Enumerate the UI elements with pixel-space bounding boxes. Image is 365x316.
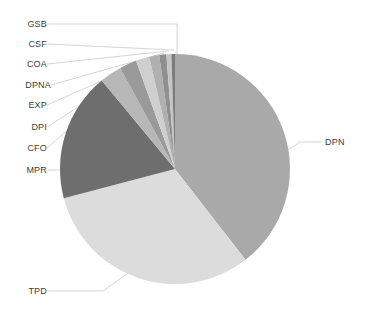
pie-label-dpi: DPI — [0, 122, 47, 132]
pie-label-mpr: MPR — [0, 165, 47, 175]
pie-label-csf: CSF — [0, 39, 47, 49]
pie-label-cfo: CFO — [0, 143, 47, 153]
pie-label-tpd: TPD — [0, 286, 47, 296]
pie-chart-figure: GSB CSF COA DPNA EXP DPI CFO MPR TPD DPN — [0, 0, 365, 316]
pie-label-gsb: GSB — [0, 19, 47, 29]
pie-label-dpn: DPN — [325, 137, 365, 147]
pie-label-dpna: DPNA — [0, 80, 51, 90]
pie-label-coa: COA — [0, 59, 47, 69]
pie-chart-canvas — [0, 0, 365, 316]
leader-line-dpn — [288, 142, 322, 150]
pie-label-exp: EXP — [0, 100, 47, 110]
leader-line-csf — [47, 44, 174, 50]
pie-slices-group — [60, 54, 290, 284]
leader-line-tpd — [47, 268, 135, 291]
